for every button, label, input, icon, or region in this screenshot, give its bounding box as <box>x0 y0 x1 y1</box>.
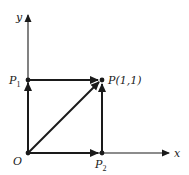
x-axis-label: x <box>174 147 181 160</box>
p2-label: P2 <box>94 158 106 173</box>
vector-o-to-p <box>28 82 99 153</box>
vectors <box>28 80 102 153</box>
p2-label-subscript: 2 <box>102 164 106 173</box>
p1-label: P1 <box>8 74 20 89</box>
labels: y x O P1 P2 P(1,1) <box>8 11 181 173</box>
p1-label-subscript: 1 <box>16 80 20 89</box>
origin-label: O <box>13 155 22 168</box>
y-axis-label: y <box>15 11 23 24</box>
diagram-canvas: y x O P1 P2 P(1,1) <box>0 0 189 175</box>
p-label: P(1,1) <box>107 74 141 87</box>
point-p1 <box>26 78 31 83</box>
point-p <box>100 78 105 83</box>
point-origin <box>26 151 31 156</box>
point-p2 <box>100 151 105 156</box>
